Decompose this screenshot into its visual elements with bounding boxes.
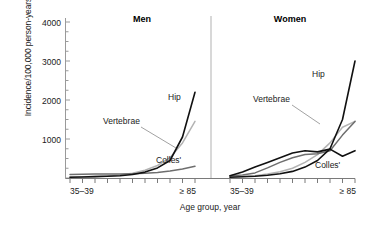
men-annotations: Hip Vertebrae Colles' [103, 92, 182, 165]
women-label-hip: Hip [312, 69, 325, 79]
chart-svg: 4000 3000 2000 1000 35–39 ≥ 85 35–39 ≥ 8… [0, 0, 368, 226]
figure-container: Incidence/100,000 person-years 4000 3000… [0, 0, 368, 226]
panel-title-women: Women [274, 14, 306, 24]
x-tick-label-women-left: 35–39 [230, 186, 254, 196]
men-label-colles: Colles' [156, 155, 182, 165]
women-leader-vertebrae [292, 105, 320, 124]
y-tick-label-4000: 4000 [42, 18, 61, 28]
x-axis: 35–39 ≥ 85 35–39 ≥ 85 Age group, year [66, 179, 357, 213]
y-tick-label-2000: 2000 [42, 96, 61, 106]
x-axis-title: Age group, year [180, 202, 241, 212]
y-tick-label-3000: 3000 [42, 57, 61, 67]
women-label-vertebrae: Vertebrae [253, 94, 290, 104]
men-series-colles [70, 166, 195, 174]
x-tick-label-women-right: ≥ 85 [340, 186, 357, 196]
y-axis-title: Incidence/100,000 person-years [23, 0, 33, 133]
x-ticks-men [70, 179, 195, 184]
men-label-vertebrae: Vertebrae [103, 116, 140, 126]
men-leader-vertebrae [141, 127, 176, 148]
men-label-hip: Hip [168, 92, 181, 102]
x-ticks-women [230, 179, 355, 184]
women-label-colles: Colles' [315, 160, 341, 170]
y-axis: 4000 3000 2000 1000 [42, 18, 70, 179]
x-tick-label-men-left: 35–39 [70, 186, 94, 196]
x-tick-label-men-right: ≥ 85 [180, 186, 197, 196]
panel-title-men: Men [133, 14, 151, 24]
women-annotations: Hip Vertebrae Colles' [253, 69, 341, 170]
y-tick-label-1000: 1000 [42, 135, 61, 145]
